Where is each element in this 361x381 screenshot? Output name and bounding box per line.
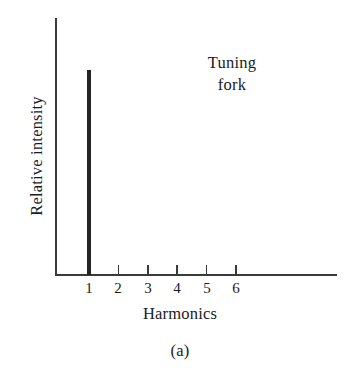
tick-label-4: 4 bbox=[166, 281, 188, 296]
x-axis-title: Harmonics bbox=[105, 304, 255, 324]
tick-label-5: 5 bbox=[196, 281, 218, 296]
tick-label-3: 3 bbox=[137, 281, 159, 296]
figure-panel: 1 2 3 4 5 6 Relative intensity Harmonics… bbox=[0, 0, 361, 381]
series-annotation-line-2: fork bbox=[175, 74, 289, 96]
tick-label-1: 1 bbox=[78, 281, 100, 296]
series-annotation-line-1: Tuning bbox=[175, 52, 289, 74]
series-annotation: Tuning fork bbox=[175, 52, 289, 96]
x-axis-ticks bbox=[89, 265, 236, 275]
tick-label-2: 2 bbox=[107, 281, 129, 296]
y-axis-title: Relative intensity bbox=[27, 51, 47, 261]
figure-caption: (a) bbox=[130, 341, 230, 361]
tick-label-6: 6 bbox=[225, 281, 247, 296]
